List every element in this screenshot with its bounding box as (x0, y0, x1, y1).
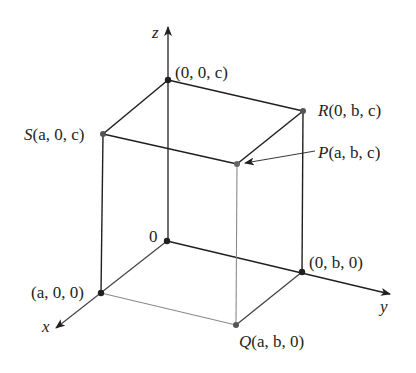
edge-R-y (302, 111, 303, 272)
point-Q (233, 322, 239, 328)
point-origin (164, 238, 170, 244)
label-S-name: S (24, 125, 33, 144)
edge-S-P (103, 134, 237, 164)
edge-R-P (237, 111, 303, 164)
edge-y-Q (236, 272, 302, 325)
point-S (100, 131, 106, 137)
label-y-point: (0, b, 0) (309, 254, 363, 271)
point-y (299, 269, 305, 275)
label-P-coords: (a, b, c) (328, 143, 380, 162)
coordinate-box-diagram: z y x (0, 0, c) S(a, 0, c) R(0, b, c) P(… (0, 0, 416, 373)
diagram-lines (0, 0, 416, 373)
label-P: P(a, b, c) (318, 144, 380, 161)
label-Q: Q(a, b, 0) (239, 333, 304, 350)
x-axis-label: x (42, 318, 50, 335)
label-R: R(0, b, c) (318, 102, 381, 119)
point-P (234, 161, 240, 167)
edge-z-S (103, 80, 168, 134)
label-origin: 0 (149, 228, 158, 245)
label-S-coords: (a, 0, c) (33, 125, 85, 144)
label-Q-name: Q (239, 332, 251, 351)
edge-P-Q (236, 164, 237, 325)
z-axis-label: z (152, 24, 159, 41)
point-x (98, 290, 104, 296)
label-P-name: P (318, 143, 328, 162)
y-axis-label: y (380, 298, 388, 315)
edge-z-R (168, 80, 303, 111)
label-R-coords: (0, b, c) (328, 101, 381, 120)
label-R-name: R (318, 101, 328, 120)
pointer-to-P (245, 151, 315, 163)
label-z-point: (0, 0, c) (175, 64, 228, 81)
label-Q-coords: (a, b, 0) (251, 332, 304, 351)
point-R (300, 108, 306, 114)
label-x-point: (a, 0, 0) (31, 284, 84, 301)
point-z (165, 77, 171, 83)
edge-S-x (101, 134, 103, 293)
edge-x-Q (101, 293, 236, 325)
label-S: S(a, 0, c) (24, 126, 84, 143)
